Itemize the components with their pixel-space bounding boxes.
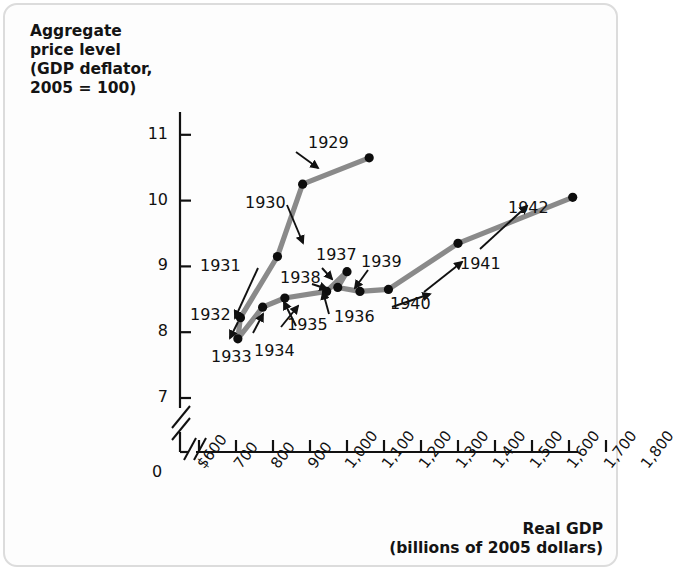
data-point-1933[interactable]: [233, 334, 242, 343]
y-tick-label-8: 8: [128, 321, 168, 340]
annotation-arrow-1941: [424, 262, 462, 292]
x-axis-break-mark-1: [184, 438, 196, 460]
annotation-arrow-1929: [296, 152, 318, 168]
origin-label: 0: [152, 462, 162, 481]
data-point-1941[interactable]: [453, 239, 462, 248]
data-point-1937[interactable]: [342, 267, 351, 276]
point-label-1933: 1933: [211, 347, 252, 366]
point-label-1938: 1938: [280, 268, 321, 287]
point-label-1930: 1930: [245, 193, 286, 212]
annotation-arrow-1939: [355, 270, 368, 288]
data-point-1938[interactable]: [333, 283, 342, 292]
annotation-arrow-1937: [322, 268, 332, 279]
y-tick-label-9: 9: [128, 255, 168, 274]
y-tick-label-11: 11: [128, 124, 168, 143]
data-point-1931[interactable]: [273, 252, 282, 261]
data-point-1929[interactable]: [365, 153, 374, 162]
point-label-1934: 1934: [254, 341, 295, 360]
point-label-1929: 1929: [308, 133, 349, 152]
point-label-1932: 1932: [190, 305, 231, 324]
point-label-1942: 1942: [508, 198, 549, 217]
y-tick-label-7: 7: [128, 387, 168, 406]
data-point-1940[interactable]: [384, 285, 393, 294]
data-point-1930[interactable]: [298, 180, 307, 189]
x-tick-label-1,800: 1,800: [637, 427, 677, 472]
data-point-1934[interactable]: [258, 303, 267, 312]
y-tick-label-10: 10: [128, 190, 168, 209]
data-point-1939[interactable]: [355, 287, 364, 296]
point-label-1936: 1936: [334, 307, 375, 326]
point-label-1935: 1935: [287, 315, 328, 334]
data-point-1935[interactable]: [280, 293, 289, 302]
point-label-1931: 1931: [200, 256, 241, 275]
y-axis-break-mark-1: [172, 406, 190, 428]
point-label-1939: 1939: [361, 252, 402, 271]
point-label-1937: 1937: [316, 245, 357, 264]
point-label-1940: 1940: [390, 294, 431, 313]
data-point-1942[interactable]: [568, 193, 577, 202]
point-label-1941: 1941: [460, 254, 501, 273]
